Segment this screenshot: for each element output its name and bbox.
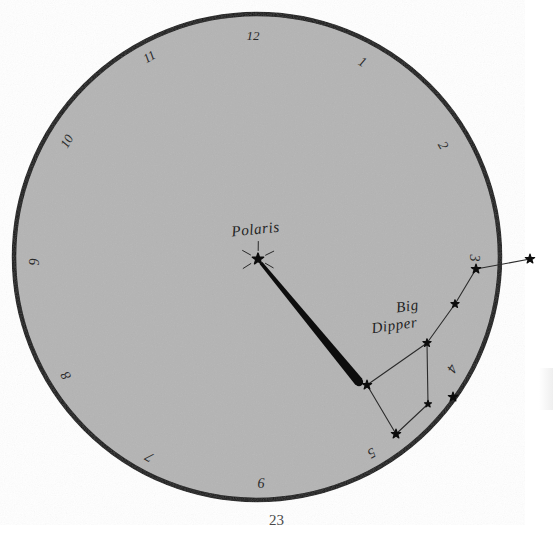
pointer-tip — [355, 378, 363, 386]
figure-page: 121234567891011 PolarisBigDipper 23 — [0, 0, 553, 544]
hour-number-3: 3 — [467, 254, 482, 262]
star-clock-figure: 121234567891011 PolarisBigDipper — [0, 0, 553, 544]
hour-number-12: 12 — [247, 28, 261, 43]
page-number: 23 — [0, 512, 553, 529]
star-alkaid — [525, 254, 534, 263]
big-dipper-label-line1: Big — [395, 297, 420, 316]
hour-number-6: 6 — [258, 476, 265, 491]
hour-number-9: 9 — [27, 259, 42, 266]
